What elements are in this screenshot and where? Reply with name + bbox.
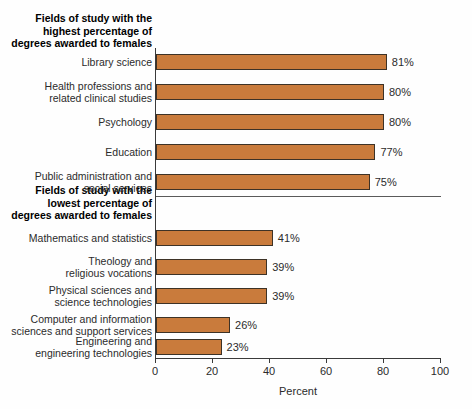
group-header-lowest-line-3: degrees awarded to females (4, 209, 152, 222)
x-tick-label: 80 (377, 365, 389, 377)
x-tick (383, 358, 384, 363)
bar (156, 114, 384, 130)
group-header-highest-line-2: highest percentage of (4, 25, 152, 38)
bar (156, 144, 375, 160)
category-label-line: Psychology (4, 116, 152, 128)
x-tick (155, 358, 156, 363)
x-tick (440, 358, 441, 363)
bar (156, 317, 230, 333)
bar-value-label: 75% (375, 176, 397, 188)
bar-value-label: 41% (278, 232, 300, 244)
group-header-lowest-line-2: lowest percentage of (4, 197, 152, 210)
y-axis-line (155, 48, 156, 358)
category-label: Library science (4, 56, 152, 68)
bar (156, 339, 222, 355)
category-label-line: Theology and (4, 255, 152, 267)
bar-value-label: 26% (235, 319, 257, 331)
category-label: Computer and informationsciences and sup… (4, 313, 152, 337)
category-label-line: religious vocations (4, 267, 152, 279)
category-label-line: engineering technologies (4, 347, 152, 359)
bar-value-label: 23% (227, 341, 249, 353)
category-label-line: Physical sciences and (4, 284, 152, 296)
x-axis-title: Percent (155, 385, 441, 397)
x-tick (326, 358, 327, 363)
category-label-line: social services (4, 182, 152, 194)
bar-value-label: 77% (380, 146, 402, 158)
x-tick-label: 100 (431, 365, 449, 377)
bar (156, 84, 384, 100)
category-label-line: Computer and information (4, 313, 152, 325)
group-header-highest: Fields of study with the highest percent… (4, 12, 152, 50)
category-label-line: Mathematics and statistics (4, 232, 152, 244)
x-axis-line (155, 358, 441, 359)
category-label: Physical sciences andscience technologie… (4, 284, 152, 308)
group-header-highest-line-3: degrees awarded to females (4, 37, 152, 50)
category-label: Health professions andrelated clinical s… (4, 80, 152, 104)
x-tick (269, 358, 270, 363)
bar-value-label: 39% (272, 290, 294, 302)
bar (156, 230, 273, 246)
category-label-line: Education (4, 146, 152, 158)
category-label-line: Library science (4, 56, 152, 68)
bar (156, 54, 387, 70)
category-label: Education (4, 146, 152, 158)
bar (156, 288, 267, 304)
x-tick-label: 60 (320, 365, 332, 377)
x-tick-label: 0 (152, 365, 158, 377)
group-header-highest-line-1: Fields of study with the (4, 12, 152, 25)
category-label: Public administration andsocial services (4, 170, 152, 194)
category-label-line: science technologies (4, 296, 152, 308)
x-tick-label: 40 (263, 365, 275, 377)
bar (156, 259, 267, 275)
category-label: Engineering andengineering technologies (4, 335, 152, 359)
bar (156, 174, 370, 190)
bar-chart: Fields of study with the highest percent… (0, 0, 472, 409)
category-label: Theology andreligious vocations (4, 255, 152, 279)
group-divider-line (156, 196, 441, 197)
category-label: Mathematics and statistics (4, 232, 152, 244)
bar-value-label: 81% (392, 56, 414, 68)
category-label-line: Health professions and (4, 80, 152, 92)
category-label-line: related clinical studies (4, 92, 152, 104)
x-tick (212, 358, 213, 363)
category-label-line: Public administration and (4, 170, 152, 182)
category-label: Psychology (4, 116, 152, 128)
category-label-line: Engineering and (4, 335, 152, 347)
x-tick-label: 20 (206, 365, 218, 377)
bar-value-label: 80% (389, 86, 411, 98)
bar-value-label: 80% (389, 116, 411, 128)
bar-value-label: 39% (272, 261, 294, 273)
